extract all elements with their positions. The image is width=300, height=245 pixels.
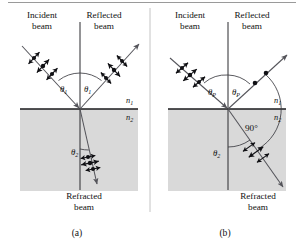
index-n2-subscript-a: 2 <box>130 117 133 123</box>
incident-beam-label-line1-a: Incident <box>27 10 58 20</box>
polarization-marker-incident-b <box>174 61 207 90</box>
angle-theta2-subscript-a: 2 <box>75 152 78 158</box>
panel-caption-b: (b) <box>219 227 230 239</box>
angle-theta1-reflected-subscript-a: 1 <box>88 89 91 95</box>
optics-figure-canvas: Incident beam Reflected beam Refracted b… <box>0 0 300 245</box>
angle-theta1-incident-label-a: θ1 <box>60 84 67 95</box>
refracted-beam-label-line1-b: Refracted <box>240 191 276 201</box>
angle-thetaP-reflected-subscript-b: P <box>235 92 240 98</box>
refracted-beam-label-line1-a: Refracted <box>66 191 102 201</box>
panel-b: Incident beam Reflected beam Refracted b… <box>168 10 287 239</box>
incident-beam-label-line2-b: beam <box>180 21 200 31</box>
angle-arc-reflected-b <box>228 75 250 84</box>
angle-theta1-incident-subscript-a: 1 <box>64 89 67 95</box>
reflected-beam-label-line1-b: Reflected <box>234 10 270 20</box>
medium-n2-region-b <box>168 109 286 191</box>
panel-a: Incident beam Reflected beam Refracted b… <box>20 10 139 239</box>
index-n1-subscript-a: 1 <box>130 100 133 106</box>
panel-caption-a: (a) <box>72 227 83 239</box>
reflected-beam-label-line2-a: beam <box>94 21 114 31</box>
polarization-marker-incident-a <box>27 50 60 81</box>
polarization-marker-reflected-a <box>99 54 129 86</box>
incident-beam-label-line1-b: Incident <box>175 10 206 20</box>
polarization-marker-reflected-b <box>253 71 269 86</box>
refracted-beam-label-line2-b: beam <box>248 202 268 212</box>
refracted-beam-label-line2-a: beam <box>74 202 94 212</box>
medium-n2-region-a <box>20 109 138 191</box>
angle-theta1-reflected-label-a: θ1 <box>84 84 91 95</box>
angle-arc-incident-b <box>204 75 228 83</box>
reflected-beam-label-line1-a: Reflected <box>86 10 122 20</box>
angle-thetaP-reflected-label-b: θP <box>232 87 240 98</box>
right-angle-label-b: 90° <box>245 123 258 133</box>
angle-thetaP-incident-subscript-b: P <box>211 92 216 98</box>
angle-arc-incident-a <box>59 73 81 81</box>
index-n2-subscript-b: 2 <box>278 117 281 123</box>
angle-thetaP-incident-label-b: θP <box>208 87 216 98</box>
index-n1-subscript-b: 1 <box>278 100 281 106</box>
incident-beam-label-line2-a: beam <box>32 21 52 31</box>
incident-ray-a <box>22 46 79 108</box>
reflected-beam-label-line2-b: beam <box>242 21 262 31</box>
index-n1-label-a: n1 <box>126 96 133 106</box>
angle-theta2-subscript-b: 2 <box>217 153 220 159</box>
figure-root: Incident beam Reflected beam Refracted b… <box>0 0 300 245</box>
angle-arc-reflected-a <box>80 73 102 81</box>
